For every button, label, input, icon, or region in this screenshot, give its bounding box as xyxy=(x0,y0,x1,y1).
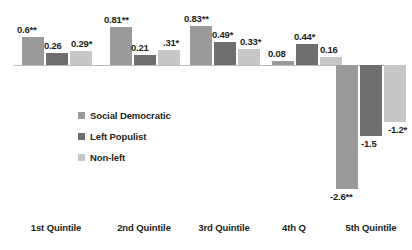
legend-swatch-icon xyxy=(78,112,85,119)
bar-slot xyxy=(272,0,294,215)
bar-4-1[interactable] xyxy=(272,61,294,65)
bar-2-3[interactable] xyxy=(158,50,180,65)
value-label-5-3: -1.2* xyxy=(388,125,407,135)
value-label-1-2: 0.26 xyxy=(44,41,62,51)
bar-slot xyxy=(238,0,260,215)
value-label-2-1: 0.81** xyxy=(104,15,129,25)
value-label-2-3: .31* xyxy=(163,38,179,48)
legend-item-2[interactable]: Left Populist xyxy=(78,126,171,147)
value-label-1-3: 0.29* xyxy=(71,39,92,49)
value-label-4-3: 0.16 xyxy=(320,45,338,55)
value-label-5-2: -1.5 xyxy=(361,139,377,149)
bar-slot xyxy=(190,0,212,215)
bar-5-3[interactable] xyxy=(384,65,406,122)
value-label-1-1: 0.6** xyxy=(17,25,37,35)
bar-slot xyxy=(360,0,382,215)
value-label-3-3: 0.33* xyxy=(240,37,261,47)
bar-slot xyxy=(336,0,358,215)
bar-3-1[interactable] xyxy=(190,26,212,65)
bar-1-3[interactable] xyxy=(70,51,92,65)
value-label-2-2: 0.21 xyxy=(131,43,149,53)
bar-2-1[interactable] xyxy=(110,27,132,65)
legend-item-3[interactable]: Non-left xyxy=(78,147,171,168)
bar-slot xyxy=(46,0,68,215)
bar-4-2[interactable] xyxy=(296,44,318,65)
category-axis: 1st Quintile2nd Quintile3rd Quintile4th … xyxy=(0,222,412,242)
bar-2-2[interactable] xyxy=(134,55,156,65)
bar-1-2[interactable] xyxy=(46,53,68,65)
chart-legend: Social DemocraticLeft PopulistNon-left xyxy=(78,105,171,168)
category-label-5: 5th Quintile xyxy=(321,222,412,233)
bar-3-2[interactable] xyxy=(214,42,236,65)
legend-item-label: Non-left xyxy=(90,152,125,163)
legend-swatch-icon xyxy=(78,133,85,140)
bar-1-1[interactable] xyxy=(22,37,44,66)
plot-area: 0.6**0.260.29*0.81**0.21.31*0.83**0.49*0… xyxy=(0,0,412,215)
value-label-5-1: -2.6** xyxy=(330,192,353,202)
legend-item-1[interactable]: Social Democratic xyxy=(78,105,171,126)
value-label-4-2: 0.44* xyxy=(294,32,315,42)
bar-5-1[interactable] xyxy=(336,65,358,189)
value-label-3-1: 0.83** xyxy=(184,14,209,24)
category-label-1: 1st Quintile xyxy=(6,222,106,233)
grouped-bar-chart: 0.6**0.260.29*0.81**0.21.31*0.83**0.49*0… xyxy=(0,0,412,250)
bar-3-3[interactable] xyxy=(238,49,260,65)
bar-5-2[interactable] xyxy=(360,65,382,136)
legend-item-label: Social Democratic xyxy=(90,110,171,121)
value-label-3-2: 0.49* xyxy=(212,30,233,40)
bar-slot xyxy=(384,0,406,215)
legend-item-label: Left Populist xyxy=(90,131,146,142)
legend-swatch-icon xyxy=(78,154,85,161)
value-label-4-1: 0.08 xyxy=(268,49,286,59)
